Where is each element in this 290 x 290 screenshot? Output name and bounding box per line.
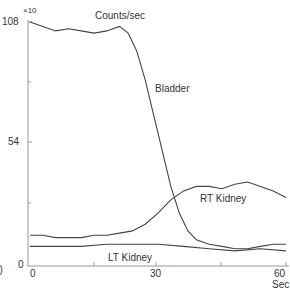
x-tick-label-30: 30	[150, 268, 161, 279]
label-rt-kidney: RT Kidney	[200, 193, 246, 204]
label-bladder: Bladder	[155, 83, 189, 94]
y-tick-label-0: 0	[18, 259, 24, 270]
series-rt-kidney	[30, 182, 286, 238]
x-tick-label-0: 0	[30, 268, 36, 279]
y-ticks	[28, 22, 32, 203]
y-tick-label-108: 108	[2, 16, 19, 27]
x-axis-unit: Sec	[272, 279, 289, 290]
chart-title: Counts/sec	[95, 10, 145, 21]
label-lt-kidney: LT Kidney	[108, 252, 152, 263]
y-multiplier: ×10	[23, 6, 37, 15]
panel-label: b)	[0, 264, 3, 275]
series-bladder	[30, 22, 286, 249]
x-tick-label-60: 60	[274, 268, 285, 279]
y-tick-label-54: 54	[8, 136, 19, 147]
series-lt-kidney	[30, 244, 286, 251]
